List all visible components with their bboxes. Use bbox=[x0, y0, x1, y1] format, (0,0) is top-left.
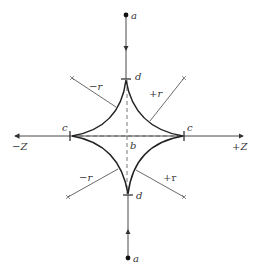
label-c-left: c bbox=[62, 122, 68, 133]
label-c-right: c bbox=[187, 122, 193, 133]
label-minus-z: −Z bbox=[12, 141, 28, 152]
point-a-bottom bbox=[126, 256, 131, 261]
label-a-top: a bbox=[131, 10, 137, 21]
label-b-center: b bbox=[130, 140, 136, 151]
up-arrow-icon bbox=[126, 229, 131, 234]
label-d-top: d bbox=[135, 71, 141, 82]
label-minus-r-lower: −r bbox=[79, 172, 93, 183]
label-plus-r-upper: +r bbox=[149, 88, 163, 99]
down-arrow-icon bbox=[124, 46, 129, 51]
point-a-top bbox=[124, 13, 129, 18]
label-plus-z: +Z bbox=[232, 141, 248, 152]
label-d-bottom: d bbox=[136, 190, 142, 201]
label-a-bottom: a bbox=[133, 253, 139, 264]
label-minus-r-upper: −r bbox=[89, 81, 103, 92]
astroid-diagram: a a d d c c b −Z +Z −r +r −r +r bbox=[0, 0, 255, 274]
label-plus-r-lower: +r bbox=[163, 172, 176, 183]
